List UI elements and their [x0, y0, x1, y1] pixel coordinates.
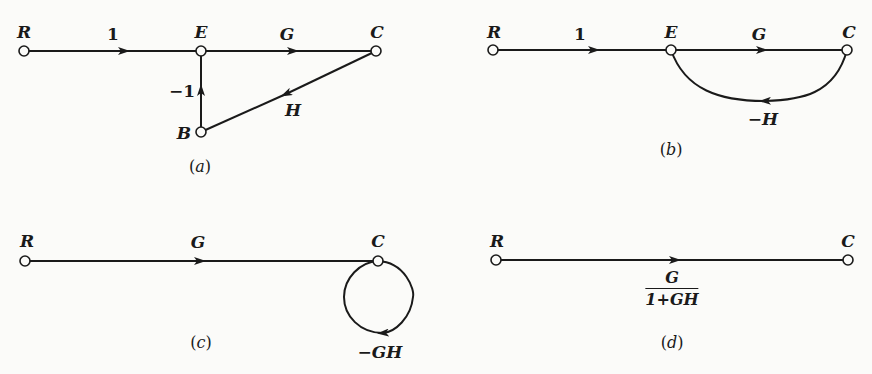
node-c-R [20, 256, 30, 266]
node-b-R [488, 45, 498, 55]
node-d-R [491, 255, 501, 265]
gain-numerator: G [645, 268, 698, 289]
node-c-C [373, 256, 383, 266]
node-a-R [19, 46, 29, 56]
gain-b-C-E: −H [748, 109, 778, 129]
node-label-c-R: R [20, 231, 34, 251]
node-label-d-R: R [490, 231, 504, 251]
graph-lines [0, 0, 872, 374]
gain-a-B-E: −1 [169, 81, 195, 101]
node-label-b-R: R [487, 22, 501, 42]
gain-c-R-C: G [191, 232, 206, 252]
node-b-C [842, 45, 852, 55]
caption-a: (a) [189, 157, 211, 176]
node-a-C [371, 46, 381, 56]
gain-b-E-C: G [752, 24, 767, 44]
node-a-B [196, 127, 206, 137]
diagram-a-branches [24, 51, 376, 132]
diagram-c-branches [25, 261, 413, 333]
node-a-E [196, 46, 206, 56]
gain-b-R-E: 1 [574, 24, 586, 44]
node-label-a-R: R [17, 22, 31, 42]
caption-c: (c) [190, 333, 211, 352]
gain-a-C-B: H [285, 100, 301, 120]
node-label-a-C: C [370, 22, 384, 42]
gain-denominator: 1+GH [645, 289, 698, 309]
caption-b: (b) [660, 140, 683, 159]
node-label-d-C: C [841, 231, 855, 251]
gain-a-R-E: 1 [107, 24, 119, 44]
diagram-b-branches [493, 50, 847, 101]
node-b-E [666, 45, 676, 55]
gain-a-E-C: G [280, 24, 295, 44]
gain-c-self-loop: −GH [358, 342, 403, 362]
node-d-C [843, 255, 853, 265]
node-label-b-C: C [842, 22, 856, 42]
caption-d: (d) [661, 333, 684, 352]
node-label-a-B: B [177, 123, 191, 143]
node-label-c-C: C [371, 231, 385, 251]
node-label-b-E: E [665, 22, 678, 42]
signal-flow-graph-figure: R E C B 1 G H −1 (a) R E C 1 G −H (b) R … [0, 0, 872, 374]
node-label-a-E: E [195, 22, 208, 42]
gain-d-R-C-fraction: G 1+GH [645, 268, 698, 309]
